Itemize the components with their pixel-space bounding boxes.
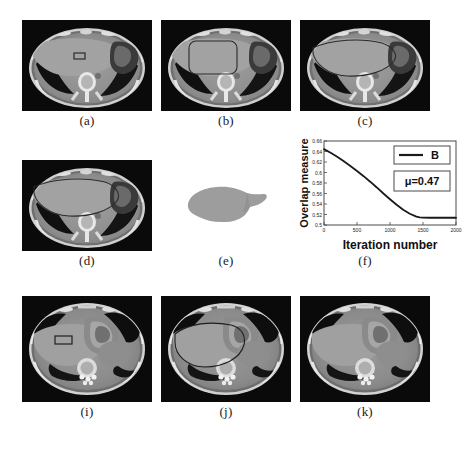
panel-caption-i: (i) bbox=[22, 404, 152, 420]
panel-caption-e: (e) bbox=[161, 253, 291, 269]
panel-caption-c: (c) bbox=[300, 113, 430, 129]
svg-text:0.6: 0.6 bbox=[315, 170, 322, 176]
panel-caption-k: (k) bbox=[300, 404, 430, 420]
panel-caption-b: (b) bbox=[161, 113, 291, 129]
svg-text:1000: 1000 bbox=[384, 227, 395, 233]
overlap-measure-chart: 0.50.520.540.560.580.60.620.640.66 05001… bbox=[298, 133, 470, 253]
ct-slice-j bbox=[161, 296, 291, 402]
legend-label-B: B bbox=[431, 149, 439, 161]
panel-e-image bbox=[161, 160, 291, 251]
svg-text:0.64: 0.64 bbox=[312, 149, 322, 155]
panel-i-image bbox=[22, 296, 152, 402]
svg-text:0.54: 0.54 bbox=[312, 201, 322, 207]
svg-text:0: 0 bbox=[323, 227, 326, 233]
y-axis-title: Overlap measure bbox=[298, 138, 310, 227]
panel-f-chart: 0.50.520.540.560.580.60.620.640.66 05001… bbox=[298, 133, 470, 253]
panel-caption-j: (j) bbox=[161, 404, 291, 420]
panel-c-image bbox=[300, 20, 430, 111]
svg-text:0.52: 0.52 bbox=[312, 212, 322, 218]
svg-text:0.56: 0.56 bbox=[312, 191, 322, 197]
svg-text:0.5: 0.5 bbox=[315, 222, 322, 228]
panel-a-image bbox=[22, 20, 152, 111]
liver-mask bbox=[161, 160, 291, 251]
ct-slice-i bbox=[22, 296, 152, 402]
ct-slice-k bbox=[300, 296, 430, 402]
panel-caption-a: (a) bbox=[22, 113, 152, 129]
svg-text:500: 500 bbox=[353, 227, 362, 233]
ct-slice-b bbox=[161, 20, 291, 111]
svg-text:0.66: 0.66 bbox=[312, 138, 322, 144]
panel-j-image bbox=[161, 296, 291, 402]
chart-annotation-mu: μ=0.47 bbox=[394, 171, 450, 191]
chart-legend: B bbox=[394, 146, 450, 164]
panel-k-image bbox=[300, 296, 430, 402]
svg-text:0.58: 0.58 bbox=[312, 180, 322, 186]
y-axis-tick-labels: 0.50.520.540.560.580.60.620.640.66 bbox=[312, 138, 322, 228]
panel-caption-d: (d) bbox=[22, 253, 152, 269]
svg-text:0.62: 0.62 bbox=[312, 159, 322, 165]
panel-caption-f: (f) bbox=[300, 253, 430, 269]
figure-container: (a) bbox=[0, 0, 472, 449]
ct-slice-a bbox=[22, 20, 152, 111]
annotation-mu-text: μ=0.47 bbox=[405, 175, 440, 187]
ct-slice-d bbox=[22, 160, 152, 251]
panel-d-image bbox=[22, 160, 152, 251]
x-axis-title: Iteration number bbox=[343, 238, 438, 252]
svg-text:1500: 1500 bbox=[417, 227, 428, 233]
ct-slice-c bbox=[300, 20, 430, 111]
panel-b-image bbox=[161, 20, 291, 111]
svg-text:2000: 2000 bbox=[450, 227, 461, 233]
